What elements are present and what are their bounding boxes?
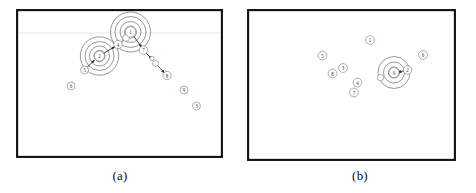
node-7-circle (139, 46, 147, 54)
node-4-circle (114, 40, 122, 48)
node-7[interactable]: 7 (139, 46, 147, 54)
node-6-circle (67, 82, 75, 90)
node-2[interactable]: 2 (403, 66, 411, 74)
node-3-circle (193, 102, 201, 110)
node-2-circle (403, 66, 411, 74)
waypoint-b1 (377, 74, 383, 80)
panel-a-caption: (a) (88, 168, 152, 184)
node-2[interactable]: 2 (95, 51, 105, 61)
panel-b-frame (248, 10, 455, 160)
node-8[interactable]: 8 (328, 69, 337, 78)
waypoint-a2 (150, 56, 154, 60)
waypoint-a1 (153, 61, 159, 67)
node-5-circle (318, 51, 327, 60)
panel-a: 124756893 (16, 9, 223, 158)
arrow-wp-to-8 (158, 66, 165, 74)
node-8[interactable]: 8 (163, 71, 171, 79)
node-5-circle (81, 66, 89, 74)
node-9[interactable]: 9 (180, 86, 188, 94)
node-8-circle (328, 69, 337, 78)
node-5[interactable]: 5 (318, 51, 327, 60)
node-4-circle (353, 78, 362, 87)
node-3[interactable]: 3 (193, 102, 201, 110)
node-2-circle (95, 51, 105, 61)
node-9[interactable]: 9 (389, 68, 399, 78)
node-8-circle (163, 71, 171, 79)
node-6[interactable]: 6 (419, 51, 428, 60)
node-1[interactable]: 1 (366, 36, 375, 45)
node-9-circle (389, 68, 399, 78)
node-9-circle (180, 86, 188, 94)
figure-root: 124756893 (a) 156384792 (b) (0, 0, 476, 193)
node-5[interactable]: 5 (81, 66, 89, 74)
node-4[interactable]: 4 (353, 78, 362, 87)
panel-b-caption: (b) (328, 168, 392, 184)
node-1-circle (125, 27, 135, 37)
panel-b-canvas: 156384792 (247, 9, 456, 161)
node-3[interactable]: 3 (339, 64, 348, 73)
panel-b: 156384792 (247, 9, 456, 161)
node-6[interactable]: 6 (67, 82, 75, 90)
node-1-circle (366, 36, 375, 45)
node-7[interactable]: 7 (350, 88, 359, 97)
node-1[interactable]: 1 (125, 27, 135, 37)
node-3-circle (339, 64, 348, 73)
node-4[interactable]: 4 (114, 40, 122, 48)
panel-a-canvas: 124756893 (16, 9, 223, 158)
node-7-circle (350, 88, 359, 97)
panel-a-frame (17, 10, 222, 157)
node-6-circle (419, 51, 428, 60)
